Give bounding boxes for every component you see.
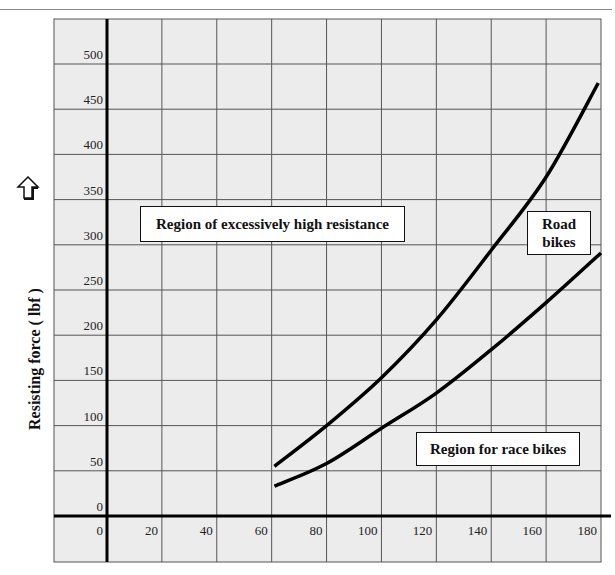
y-tick-label: 300: [84, 228, 104, 243]
x-tick-label: 100: [358, 523, 378, 538]
y-tick-label: 450: [84, 92, 104, 107]
arrow-up-icon: [16, 176, 40, 202]
annotation-race-bikes: Region for race bikes: [416, 432, 580, 466]
y-axis-label: Resisting force ( lbf ): [26, 288, 44, 430]
x-tick-label: 180: [578, 523, 598, 538]
annotation-race-bikes-text: Region for race bikes: [430, 440, 566, 458]
y-tick-label: 350: [84, 183, 104, 198]
x-tick-label: 160: [523, 523, 543, 538]
y-tick-label: 200: [84, 318, 104, 333]
chart-plot: 0501001502002503003504004505000204060801…: [0, 0, 615, 575]
annotation-high-resistance-text: Region of excessively high resistance: [156, 215, 389, 233]
annotation-road-bikes: Road bikes: [527, 211, 591, 255]
y-tick-label: 500: [84, 47, 104, 62]
x-tick-label: 60: [255, 523, 268, 538]
y-tick-label: 50: [90, 454, 103, 469]
annotation-road-bikes-line2: bikes: [542, 233, 575, 251]
x-tick-label: 80: [310, 523, 323, 538]
y-tick-label: 150: [84, 363, 104, 378]
x-tick-label: 120: [413, 523, 433, 538]
y-tick-label: 250: [84, 273, 104, 288]
y-tick-label: 400: [84, 137, 104, 152]
y-tick-label: 0: [97, 499, 104, 514]
x-tick-label: 0: [97, 523, 104, 538]
x-tick-label: 40: [200, 523, 213, 538]
x-tick-label: 20: [145, 523, 158, 538]
y-axis-label-group: Resisting force ( lbf ): [8, 170, 44, 410]
annotation-high-resistance: Region of excessively high resistance: [140, 206, 405, 242]
y-tick-label: 100: [84, 409, 104, 424]
x-tick-label: 140: [468, 523, 488, 538]
annotation-road-bikes-line1: Road: [542, 215, 576, 233]
